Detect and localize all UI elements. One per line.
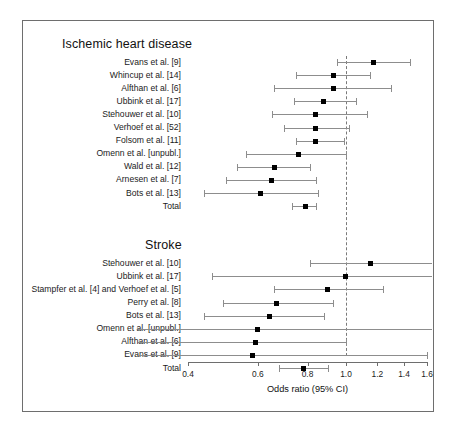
point-estimate xyxy=(331,73,336,78)
ci-cap-lower xyxy=(237,164,238,171)
point-estimate xyxy=(272,165,277,170)
ci-cap-lower xyxy=(226,177,227,184)
point-estimate xyxy=(269,178,274,183)
ci-cap-lower xyxy=(292,203,293,210)
ci-cap-lower xyxy=(296,138,297,145)
point-estimate-total xyxy=(301,366,306,371)
ci-cap-lower xyxy=(272,111,273,118)
ci-line xyxy=(296,141,344,142)
ci-cap-lower xyxy=(274,85,275,92)
point-estimate xyxy=(321,99,326,104)
ci-cap-lower xyxy=(284,125,285,132)
ci-line xyxy=(272,114,367,115)
ci-cap-upper xyxy=(324,313,325,320)
ci-cap-upper xyxy=(333,300,334,307)
point-estimate-total xyxy=(303,204,308,209)
ci-cap-upper xyxy=(328,365,329,372)
point-estimate xyxy=(313,112,318,117)
point-estimate xyxy=(331,86,336,91)
ci-cap-lower xyxy=(246,151,247,158)
ci-cap-lower xyxy=(223,300,224,307)
point-estimate xyxy=(368,261,373,266)
point-estimate xyxy=(343,274,348,279)
ci-cap-upper xyxy=(346,151,347,158)
ci-cap-lower xyxy=(294,98,295,105)
ci-cap-upper xyxy=(367,111,368,118)
ci-line xyxy=(138,355,427,356)
ci-cap-upper xyxy=(316,177,317,184)
ci-cap-upper xyxy=(318,190,319,197)
point-estimate xyxy=(267,314,272,319)
ci-line xyxy=(212,276,432,277)
point-estimate xyxy=(296,152,301,157)
ci-cap-upper xyxy=(383,286,384,293)
ci-cap-upper xyxy=(346,339,347,346)
ci-cap-upper xyxy=(349,125,350,132)
ci-cap-upper xyxy=(356,98,357,105)
point-estimate xyxy=(313,139,318,144)
point-estimate xyxy=(250,353,255,358)
ci-cap-upper xyxy=(410,59,411,66)
ci-cap-upper xyxy=(427,352,428,359)
point-estimate xyxy=(274,301,279,306)
ci-cap-lower xyxy=(279,365,280,372)
ci-cap-upper xyxy=(310,164,311,171)
point-estimate xyxy=(313,126,318,131)
ci-cap-lower xyxy=(337,59,338,66)
ci-cap-upper xyxy=(370,72,371,79)
ci-line xyxy=(138,329,432,330)
point-estimate xyxy=(325,287,330,292)
ci-cap-lower xyxy=(204,313,205,320)
point-estimate xyxy=(255,327,260,332)
ci-cap-lower xyxy=(310,260,311,267)
ci-line xyxy=(204,316,324,317)
ci-cap-upper xyxy=(316,203,317,210)
point-estimate xyxy=(258,191,263,196)
ci-cap-lower xyxy=(204,190,205,197)
plot-clip-area xyxy=(23,21,433,411)
ci-cap-lower xyxy=(274,286,275,293)
ci-cap-lower xyxy=(296,72,297,79)
point-estimate xyxy=(371,60,376,65)
point-estimate xyxy=(253,340,258,345)
ci-line xyxy=(138,342,346,343)
ci-cap-upper xyxy=(391,85,392,92)
ci-cap-upper xyxy=(344,138,345,145)
ci-cap-lower xyxy=(212,273,213,280)
